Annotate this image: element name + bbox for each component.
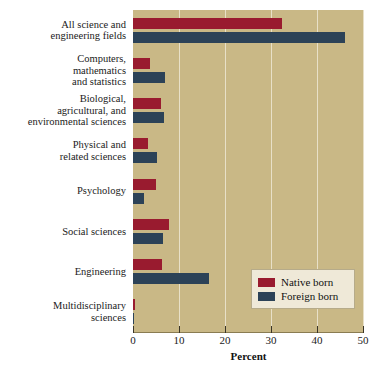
x-axis-tick-label: 30 bbox=[256, 334, 286, 346]
x-axis-tick bbox=[179, 326, 180, 333]
legend-swatch-native-born bbox=[258, 278, 275, 287]
category-label: Physical and related sciences bbox=[0, 139, 126, 162]
legend-item-native-born: Native born bbox=[258, 275, 348, 289]
bar-native-born bbox=[133, 259, 162, 270]
category-label: Social sciences bbox=[0, 226, 126, 238]
bar-foreign-born bbox=[133, 72, 165, 83]
category-label: Biological, agricultural, and environmen… bbox=[0, 93, 126, 128]
bar-native-born bbox=[133, 138, 148, 149]
bar-native-born bbox=[133, 219, 169, 230]
bar-native-born bbox=[133, 18, 282, 29]
x-axis-tick-label: 0 bbox=[118, 334, 148, 346]
category-label-column: All science and engineering fieldsComput… bbox=[0, 10, 130, 332]
x-axis-tick-label: 20 bbox=[210, 334, 240, 346]
bar-foreign-born bbox=[133, 273, 209, 284]
chart-legend: Native born Foreign born bbox=[251, 269, 355, 309]
category-label: Multidisciplinary sciences bbox=[0, 300, 126, 323]
category-label: Engineering bbox=[0, 266, 126, 278]
gridline bbox=[363, 10, 364, 332]
x-axis-tick-label: 40 bbox=[302, 334, 332, 346]
bar-foreign-born bbox=[133, 313, 134, 324]
bar-native-born bbox=[133, 58, 150, 69]
legend-item-foreign-born: Foreign born bbox=[258, 289, 348, 303]
category-label: Psychology bbox=[0, 185, 126, 197]
bar-native-born bbox=[133, 299, 135, 310]
x-axis-tick-label: 10 bbox=[164, 334, 194, 346]
legend-label-native-born: Native born bbox=[281, 276, 333, 288]
category-label: All science and engineering fields bbox=[0, 19, 126, 42]
x-axis-line bbox=[133, 332, 364, 333]
x-axis-tick bbox=[363, 326, 364, 333]
category-label: Computers, mathematics and statistics bbox=[0, 53, 126, 88]
x-axis-tick bbox=[225, 326, 226, 333]
legend-swatch-foreign-born bbox=[258, 292, 275, 301]
bar-foreign-born bbox=[133, 193, 144, 204]
x-axis-tick bbox=[317, 326, 318, 333]
bar-native-born bbox=[133, 98, 161, 109]
bar-chart: All science and engineering fieldsComput… bbox=[0, 0, 381, 377]
x-axis-tick bbox=[271, 326, 272, 333]
legend-label-foreign-born: Foreign born bbox=[281, 290, 338, 302]
bar-foreign-born bbox=[133, 152, 157, 163]
x-axis-tick bbox=[133, 326, 134, 333]
bar-foreign-born bbox=[133, 112, 164, 123]
x-axis-tick-label: 50 bbox=[348, 334, 378, 346]
bar-native-born bbox=[133, 179, 156, 190]
bar-foreign-born bbox=[133, 32, 345, 43]
gridline bbox=[225, 10, 226, 332]
x-axis-title: Percent bbox=[133, 350, 364, 362]
bar-foreign-born bbox=[133, 233, 163, 244]
